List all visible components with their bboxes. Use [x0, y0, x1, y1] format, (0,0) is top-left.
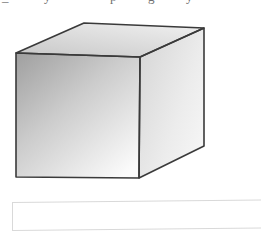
caption-box-text — [13, 200, 261, 215]
page-root: _ y p g y — [0, 0, 261, 238]
caption-box[interactable] — [12, 199, 261, 231]
cuboid-front-face — [16, 53, 140, 178]
